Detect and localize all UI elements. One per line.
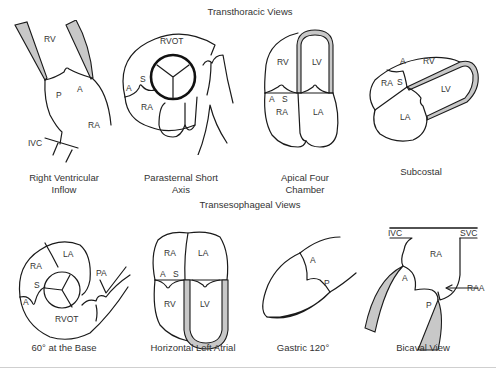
label-ra: RA bbox=[141, 102, 153, 112]
caption-line-1: Horizontal Left Atrial bbox=[150, 342, 235, 354]
ra-la-divider bbox=[45, 243, 58, 267]
label-a: A bbox=[126, 83, 132, 93]
label-a: A bbox=[77, 84, 83, 94]
mitral-valve bbox=[301, 85, 329, 93]
label-la: LA bbox=[198, 248, 209, 258]
ivc-tick-2 bbox=[66, 150, 72, 162]
la-lobe bbox=[159, 103, 185, 137]
label-a: A bbox=[269, 94, 275, 104]
label-s: S bbox=[282, 94, 288, 104]
label-a: A bbox=[23, 297, 29, 307]
label-ivc: IVC bbox=[28, 138, 42, 148]
caption-line-1: Parasternal Short bbox=[144, 172, 218, 184]
left-wall bbox=[263, 253, 300, 317]
caption-bicaval-view: Bicaval View bbox=[396, 342, 450, 354]
pa-branches bbox=[198, 105, 227, 155]
label-la: LA bbox=[400, 112, 411, 122]
label-s: S bbox=[173, 269, 179, 279]
caption-gastric-120: Gastric 120° bbox=[277, 342, 329, 354]
caption-line-2: Chamber bbox=[281, 184, 329, 196]
la-lobe-right bbox=[185, 97, 197, 130]
ivc-line bbox=[45, 138, 78, 148]
label-pa: PA bbox=[96, 268, 107, 278]
diagram-gastric-120: A P bbox=[250, 225, 360, 355]
label-lv: LV bbox=[441, 84, 451, 94]
lv-wall bbox=[184, 280, 228, 349]
label-p: P bbox=[324, 278, 330, 288]
label-p: P bbox=[56, 90, 62, 100]
label-lv: LV bbox=[312, 57, 322, 67]
label-ivc: IVC bbox=[388, 228, 402, 238]
echo-views-figure: Transthoracic Views Transesophageal View… bbox=[0, 0, 496, 372]
caption-apical-four-chamber: Apical Four Chamber bbox=[281, 172, 329, 196]
label-raa: RAA bbox=[467, 283, 485, 293]
mitral-valve bbox=[192, 280, 220, 287]
label-a: A bbox=[160, 269, 166, 279]
ra-wall bbox=[92, 78, 111, 125]
rv-wall-left bbox=[15, 22, 47, 80]
label-rvot: RVOT bbox=[160, 36, 183, 46]
la-wall bbox=[306, 93, 338, 147]
caption-rv-inflow: Right Ventricular Inflow bbox=[29, 172, 99, 196]
label-rv: RV bbox=[277, 57, 289, 67]
ivc-entry bbox=[390, 238, 412, 266]
label-la: LA bbox=[63, 249, 74, 259]
caption-line-1: Bicaval View bbox=[396, 342, 450, 354]
section-title-transesophageal: Transesophageal Views bbox=[200, 199, 301, 210]
diagram-subcostal: A RV RA S LV LA bbox=[355, 30, 496, 150]
caption-line-1: Gastric 120° bbox=[277, 342, 329, 354]
label-la: LA bbox=[313, 107, 324, 117]
label-lv: LV bbox=[200, 299, 210, 309]
caption-parasternal-short-axis: Parasternal Short Axis bbox=[144, 172, 218, 196]
tricuspid-leaflets bbox=[403, 266, 438, 300]
label-rv: RV bbox=[44, 34, 56, 44]
upper-wall bbox=[300, 237, 340, 253]
label-p: P bbox=[426, 300, 432, 310]
diagram-60-at-base: RA LA S A PA RVOT bbox=[0, 225, 140, 355]
caption-horizontal-left-atrial: Horizontal Left Atrial bbox=[150, 342, 235, 354]
caption-line-2: Inflow bbox=[29, 184, 99, 196]
right-wall bbox=[330, 273, 356, 292]
caption-line-1: Right Ventricular bbox=[29, 172, 99, 184]
ra-la-divider bbox=[375, 87, 407, 110]
ivc-tick-1 bbox=[53, 143, 58, 155]
diagram-parasternal-short-axis: RVOT A S RA bbox=[115, 25, 245, 155]
lv-posterior-wall bbox=[267, 292, 330, 318]
pa-right bbox=[203, 55, 233, 103]
interatrial-septum bbox=[298, 93, 306, 141]
interatrial-septum bbox=[185, 233, 188, 280]
label-rv: RV bbox=[164, 299, 176, 309]
label-ra: RA bbox=[381, 78, 393, 88]
tricuspid-valve bbox=[265, 85, 297, 93]
label-s: S bbox=[140, 74, 146, 84]
raa-wall bbox=[438, 238, 460, 300]
label-ra: RA bbox=[88, 120, 100, 130]
tricuspid-valve bbox=[155, 280, 184, 288]
label-s: S bbox=[34, 280, 40, 290]
left-wall-segment bbox=[365, 266, 403, 332]
rv-free-wall bbox=[154, 280, 188, 341]
aortic-valve-cusps bbox=[157, 65, 189, 99]
tricuspid-valve bbox=[45, 68, 92, 80]
pa-inner bbox=[207, 63, 211, 95]
caption-line-2: Axis bbox=[144, 184, 218, 196]
label-a: A bbox=[402, 273, 408, 283]
section-title-transthoracic: Transthoracic Views bbox=[207, 6, 292, 17]
label-ra: RA bbox=[276, 107, 288, 117]
caption-subcostal: Subcostal bbox=[400, 166, 442, 178]
label-a: A bbox=[400, 56, 406, 66]
label-svc: SVC bbox=[460, 228, 477, 238]
label-rvot: RVOT bbox=[55, 314, 78, 324]
label-s: S bbox=[397, 77, 403, 87]
bottom-divider bbox=[0, 367, 496, 368]
diagram-horizontal-left-atrial: RA LA A S RV LV bbox=[140, 225, 240, 355]
caption-line-1: Subcostal bbox=[400, 166, 442, 178]
diagram-apical-four-chamber: RV LV A S RA LA bbox=[260, 25, 360, 155]
pa-upper bbox=[82, 275, 130, 305]
diagram-bicaval-view: IVC SVC RA A P RAA bbox=[360, 220, 496, 360]
diagram-rv-inflow: RV P A RA IVC bbox=[0, 20, 120, 170]
label-ra: RA bbox=[30, 261, 42, 271]
label-a: A bbox=[310, 255, 316, 265]
caption-line-1: 60° at the Base bbox=[31, 342, 96, 354]
label-ra: RA bbox=[164, 248, 176, 258]
